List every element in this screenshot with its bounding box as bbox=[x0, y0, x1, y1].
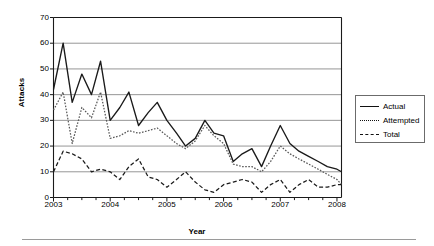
legend-item-attempted: Attempted bbox=[360, 114, 419, 126]
legend-item-total: Total bbox=[360, 128, 400, 140]
x-axis-title: Year bbox=[53, 227, 341, 236]
legend-label: Total bbox=[383, 130, 400, 139]
legend-swatch-dashed-icon bbox=[360, 131, 379, 138]
x-tick-label: 2003 bbox=[34, 200, 74, 209]
x-tick-label: 2008 bbox=[317, 200, 357, 209]
legend-swatch-dotted-icon bbox=[360, 117, 379, 124]
x-tick-label: 2007 bbox=[260, 200, 300, 209]
chart-figure: Attacks 010203040506070 2003200420052006… bbox=[0, 0, 434, 246]
legend-swatch-solid-icon bbox=[360, 103, 379, 110]
footer-rule bbox=[22, 239, 416, 240]
x-tick-label: 2005 bbox=[147, 200, 187, 209]
legend-label: Actual bbox=[383, 102, 405, 111]
x-tick-label: 2004 bbox=[90, 200, 130, 209]
x-tick-label: 2006 bbox=[204, 200, 244, 209]
chart-legend: Actual Attempted Total bbox=[355, 95, 425, 143]
legend-item-actual: Actual bbox=[360, 100, 405, 112]
legend-label: Attempted bbox=[383, 116, 419, 125]
